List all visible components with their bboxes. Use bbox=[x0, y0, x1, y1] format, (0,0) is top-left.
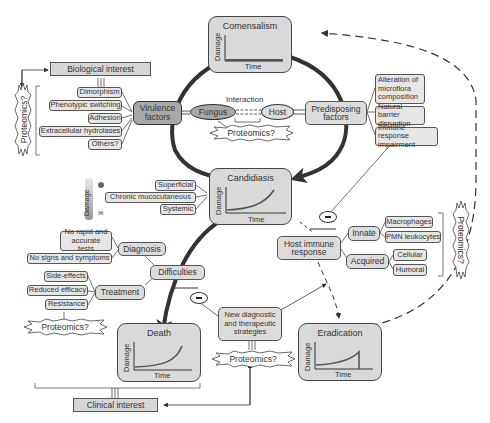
proteomics-label: Proteomics? bbox=[210, 350, 296, 368]
virulence-factors-label: Virulence factors bbox=[136, 104, 179, 123]
damage-scale-label: Damage bbox=[83, 190, 90, 216]
proteomics-burst-strategies: Proteomics? bbox=[210, 350, 296, 368]
skull-icon: ☠ bbox=[97, 208, 104, 217]
fungus-node: Fungus bbox=[190, 104, 236, 120]
proteomics-burst-immune: Proteomics? bbox=[450, 200, 472, 280]
proteomics-label: Proteomics? bbox=[22, 318, 108, 336]
axis-x-label: Time bbox=[245, 62, 261, 71]
axis-y-label: Damage bbox=[213, 33, 222, 61]
damage-scale: Damage ☠ bbox=[85, 178, 107, 222]
new-strategies-node: New diagnostic and therapeutic strategie… bbox=[218, 307, 282, 341]
candidiasis-type-systemic: Systemic bbox=[160, 204, 196, 215]
predisposing-factors: Predisposing factors bbox=[305, 101, 367, 125]
state-candidiasis: Candidiasis Damage Time bbox=[209, 168, 292, 225]
axis-y-label: Damage bbox=[214, 187, 223, 215]
diagnosis-node: Diagnosis bbox=[118, 242, 166, 256]
axis-x-label: Time bbox=[154, 371, 170, 380]
proteomics-label: Proteomics? bbox=[421, 229, 490, 251]
treatment-item-side-effects: Side-effects bbox=[44, 271, 88, 282]
damage-curve-rising bbox=[224, 185, 294, 219]
state-title: Comensalism bbox=[209, 21, 291, 31]
host-node: Host bbox=[261, 104, 294, 120]
virulence-item-adhesion: Adhesion bbox=[88, 113, 122, 124]
candidiasis-type-chronic-mucocutaneous: Chronic mucocutaneous bbox=[105, 192, 196, 203]
treatment-item-resistance: Resistance bbox=[45, 299, 88, 310]
treatment-item-reduced-efficacy: Reduced efficacy bbox=[27, 285, 88, 296]
treatment-node: Treatment bbox=[95, 285, 145, 300]
virulence-item-others: Others? bbox=[88, 139, 122, 150]
acquired-item-humoral: Humoral bbox=[393, 264, 427, 276]
virulence-factors: Virulence factors bbox=[133, 101, 182, 125]
disease-dot-icon bbox=[98, 182, 104, 188]
innate-item-macrophages: Macrophages bbox=[385, 216, 433, 228]
state-death: Death Damage Time bbox=[117, 323, 201, 382]
virulence-item-dimorphism: Dimorphism bbox=[77, 87, 122, 98]
innate-node: Innate bbox=[348, 226, 380, 241]
diagnosis-item-no-signs: No signs and symptoms bbox=[27, 253, 112, 264]
difficulties-node: Difficulties bbox=[150, 265, 205, 280]
state-title: Eradication bbox=[299, 328, 381, 338]
axis-x-label: Time bbox=[248, 215, 264, 224]
state-title: Candidiasis bbox=[210, 173, 291, 183]
predisposing-item-microflora: Alteration of microflora composition bbox=[375, 74, 425, 104]
axis-x-label: Time bbox=[335, 370, 351, 379]
state-eradication: Eradication Damage Time bbox=[298, 323, 382, 381]
proteomics-label: Proteomics? bbox=[0, 109, 61, 131]
host-immune-response: Host immune response bbox=[277, 236, 341, 260]
state-title: Death bbox=[118, 328, 200, 338]
axis-y-label: Damage bbox=[122, 344, 131, 372]
diagnosis-item-no-tests: No rapid and accurate tests bbox=[60, 231, 112, 251]
proteomics-burst-interaction: Proteomics? bbox=[208, 124, 294, 142]
proteomics-burst-biological: Proteomics? bbox=[12, 82, 34, 157]
interaction-label: Interaction bbox=[226, 95, 263, 104]
predisposing-factors-label: Predisposing factors bbox=[308, 105, 364, 122]
clinical-interest: Clinical interest bbox=[73, 398, 158, 412]
state-commensalism: Comensalism Damage Time bbox=[208, 16, 292, 73]
biological-interest: Biological interest bbox=[50, 62, 151, 76]
proteomics-label: Proteomics? bbox=[208, 124, 294, 142]
inhibition-icon bbox=[190, 292, 208, 304]
proteomics-burst-treatment: Proteomics? bbox=[22, 318, 108, 336]
axis-y-label: Damage bbox=[303, 343, 312, 371]
inhibition-icon bbox=[319, 211, 337, 223]
acquired-node: Acquired bbox=[346, 254, 389, 269]
predisposing-item-immune: Immune response impairment bbox=[375, 127, 438, 146]
candidiasis-type-superficial: Superficial bbox=[155, 180, 196, 191]
